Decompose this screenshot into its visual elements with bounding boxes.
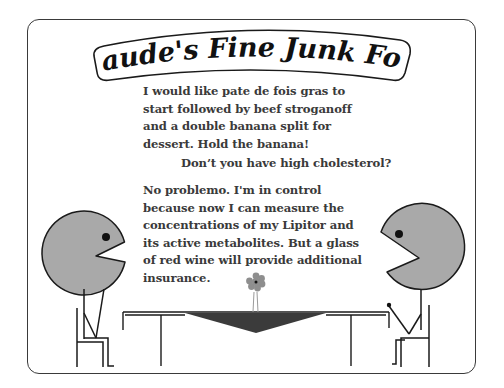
speech-line: dessert. Hold the banana! xyxy=(143,136,352,154)
speech-line: start followed by beef stroganoff xyxy=(143,101,352,119)
title-banner: Claude's Fine Junk Food xyxy=(0,0,410,80)
speech-line: I would like pate de fois gras to xyxy=(143,83,352,101)
speech-line: because now I can measure the xyxy=(143,200,362,218)
speech-cholesterol-question: Don’t you have high cholesterol? xyxy=(181,155,391,173)
tablecloth xyxy=(185,313,326,333)
speech-line: and a double banana split for xyxy=(143,118,352,136)
right-character xyxy=(381,203,465,367)
cartoon-panel: Claude's Fine Junk Food xyxy=(0,0,504,388)
left-eye xyxy=(102,233,110,241)
speech-line: insurance. xyxy=(143,270,362,288)
speech-line: Don’t you have high cholesterol? xyxy=(181,155,391,173)
right-hand xyxy=(387,303,391,307)
speech-customer-reply: No problemo. I'm in control because now … xyxy=(143,182,362,288)
left-character xyxy=(42,211,125,367)
speech-line: its active metabolites. But a glass xyxy=(143,235,362,253)
speech-line: No problemo. I'm in control xyxy=(143,182,362,200)
right-pacman-head xyxy=(381,203,465,289)
table xyxy=(123,312,389,366)
speech-line: of red wine will provide additional xyxy=(143,252,362,270)
right-body-and-chair xyxy=(389,290,429,367)
speech-line: concentrations of my Lipitor and xyxy=(143,217,362,235)
left-pacman-head xyxy=(42,211,125,295)
left-body-and-chair xyxy=(77,289,114,367)
speech-customer-order: I would like pate de fois gras to start … xyxy=(143,83,352,153)
right-eye xyxy=(395,230,403,238)
